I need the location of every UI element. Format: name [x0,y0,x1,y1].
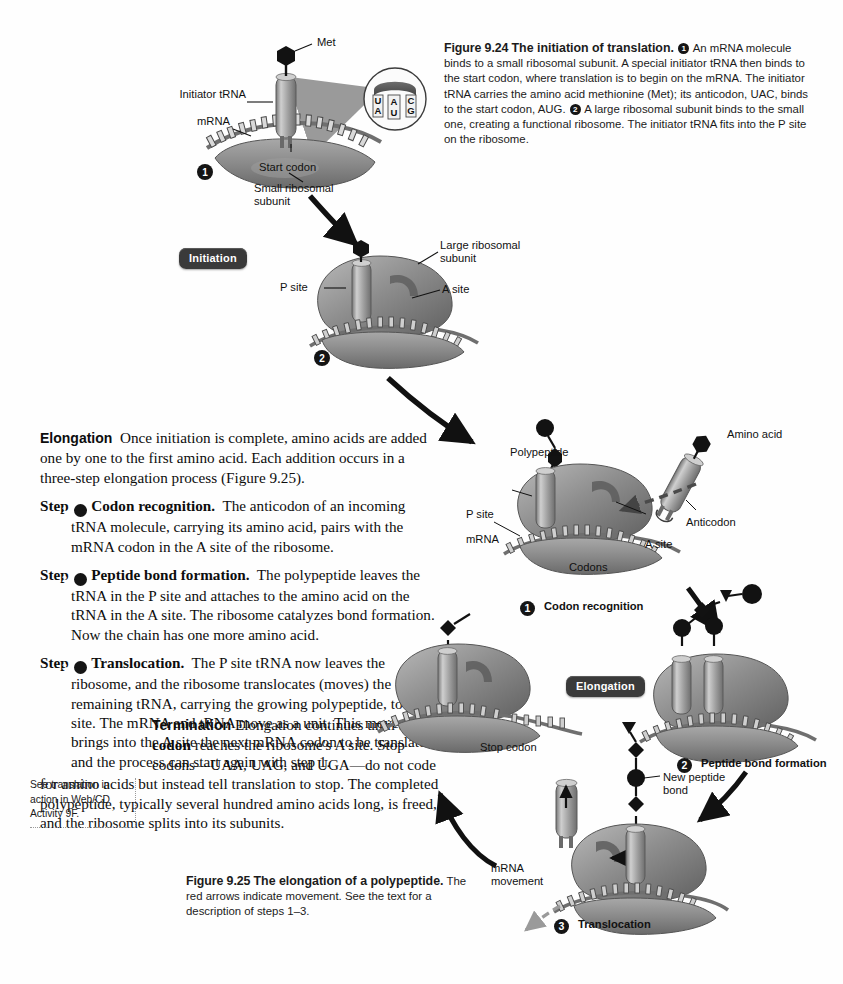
label-initiator-trna: Initiator tRNA [171,88,246,102]
polypeptide-chain-3 [622,722,645,828]
label-amino-acid: Amino acid [727,428,782,442]
label-small-ribosomal-subunit: Small ribosomal subunit [254,182,334,208]
mrna-strand [206,114,381,148]
label-stop-codon: Stop codon [480,741,537,755]
label-polypeptide: Polypeptide [510,446,568,460]
label-anticodon: Anticodon [686,516,736,530]
label-mrna-step1: mRNA [185,115,230,129]
polypeptide-chain-2 [673,584,762,646]
label-p-site-step2: P site [280,281,308,295]
inset-anticodon-base-1: U [375,95,382,106]
elongation-lead: Elongation [40,430,112,446]
step-2-paragraph: Step 2 Peptide bond formation. The polyp… [40,565,440,644]
panel-1-number: 1 [520,601,535,616]
elongation-intro-paragraph: Elongation Once initiation is complete, … [40,428,440,487]
step-2-number: 2 [74,573,87,586]
inset-codon-base-2: U [391,107,398,118]
label-a-site-step2: A site [442,283,469,297]
elongation-panel-2-art [640,588,840,768]
label-a-site-panel1: A site [645,538,672,552]
label-p-site-panel1: P site [466,508,494,522]
label-codons: Codons [569,561,608,575]
figure-924-caption: Figure 9.24 The initiation of translatio… [444,41,816,147]
mrna-strand-panel3 [554,883,728,912]
label-mrna-movement: mRNA movement [491,862,543,889]
label-met: Met [317,36,336,50]
figure-924-number: Figure 9.24 [444,41,508,55]
figure-924-title: The initiation of translation. [512,41,674,55]
inset-codon-base-3: G [407,105,414,116]
mrna-strand-step2 [310,317,478,348]
step-1-paragraph: Step 1 Codon recognition. The anticodon … [40,496,440,556]
initiation-badge: Initiation [179,248,247,266]
large-ribosomal-subunit-shape [318,256,453,338]
step-1-badge [197,164,213,180]
met-step2 [353,240,369,258]
base-pairing-inset: U A A U C G [362,66,432,136]
step-1-number: 1 [74,504,87,517]
label-new-peptide-bond: New peptide bond [663,771,725,798]
step-3-title: Translocation. [91,654,184,671]
trna-entry-dashed-arrow [622,484,696,510]
label-start-codon: Start codon [259,161,316,175]
stop-codon-bracket [490,724,512,733]
panel1-leaders [494,490,696,536]
initiator-trna-shape [276,58,296,148]
met-amino-acid-shape [277,46,295,66]
label-large-ribosomal-subunit: Large ribosomal subunit [440,239,520,266]
incoming-trna [652,431,715,525]
panel-3-number: 3 [554,919,569,934]
panel-3-caption: 3 Translocation [553,914,651,934]
inset-codon-base-1: C [408,95,415,106]
termination-lead: Termination [152,717,231,733]
polypeptide-chain-4 [440,614,470,652]
figure-925-caption: Figure 9.25 The elongation of a polypept… [186,874,478,920]
departing-trna [556,779,577,848]
caption-marker-2: 2 [570,104,581,115]
inset-anticodon-base-2: A [375,105,382,116]
panel-2-caption: 2 Peptide bond formation [676,753,827,773]
step-3-number: 3 [74,661,87,674]
caption-marker-1: 1 [678,43,689,54]
panel-1-caption: 1 Codon recognition [519,596,643,616]
figure-925-title: The elongation of a polypeptide. [254,874,444,888]
step2-leader-lines [324,252,440,298]
mrna-strand-panel2 [640,713,816,745]
svg-text:1: 1 [202,167,208,178]
label-mrna-panel1: mRNA [466,533,499,547]
polypeptide-chain-1 [536,419,562,558]
inset-pointer-arrow [303,92,371,120]
inset-anticodon-base-3: A [391,96,398,107]
elongation-badge: Elongation [566,676,645,694]
web-activity-note: See translation in action in Web/CD Acti… [30,778,136,828]
figure-925-number: Figure 9.25 [186,874,250,888]
step-1-title: Codon recognition. [91,497,215,514]
step-2-title: Peptide bond formation. [91,566,249,583]
step-2-badge [314,350,330,366]
textbook-page: Figure 9.24 The initiation of translatio… [0,0,843,984]
termination-text-a: Elongation continues until a [235,716,410,733]
svg-text:2: 2 [319,353,325,364]
